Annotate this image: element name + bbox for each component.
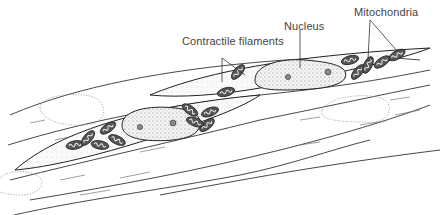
label-nucleus: Nucleus xyxy=(284,20,324,32)
label-contractile-filaments: Contractile filaments xyxy=(182,35,284,47)
smooth-muscle-illustration xyxy=(0,0,444,215)
label-mitochondria: Mitochondria xyxy=(354,6,418,18)
upper-cell xyxy=(150,47,430,99)
